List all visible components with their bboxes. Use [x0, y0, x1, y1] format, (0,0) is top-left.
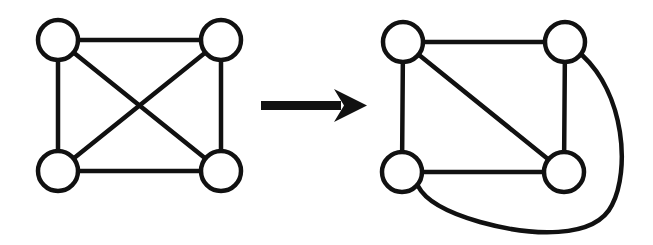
right-node-d	[544, 152, 584, 192]
right-node-b	[545, 22, 585, 62]
arrow-shaft	[261, 101, 341, 110]
graph-transformation-diagram	[0, 0, 653, 245]
left-node-b	[201, 20, 241, 60]
left-node-a	[38, 20, 78, 60]
left-graph	[38, 20, 241, 191]
right-node-c	[382, 152, 422, 192]
right-graph	[382, 22, 622, 232]
transform-arrow-icon	[261, 89, 367, 122]
left-node-c	[38, 151, 78, 191]
left-node-d	[201, 151, 241, 191]
right-edge-a-d	[403, 42, 564, 172]
right-node-a	[383, 22, 423, 62]
